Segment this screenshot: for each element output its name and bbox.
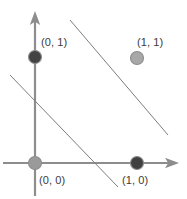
data-point-1-1 bbox=[131, 52, 144, 65]
data-point-label-1-1: (1, 1) bbox=[137, 36, 163, 48]
plot-canvas bbox=[0, 0, 187, 199]
data-point-label-0-0: (0, 0) bbox=[39, 174, 65, 186]
data-point-label-0-1: (0, 1) bbox=[41, 36, 67, 48]
lower-separator-line bbox=[10, 75, 118, 187]
xor-scatter-figure: (0, 1) (1, 1) (0, 0) (1, 0) bbox=[0, 0, 187, 199]
data-point-0-1 bbox=[29, 51, 42, 64]
data-point-label-1-0: (1, 0) bbox=[122, 174, 148, 186]
data-points-group bbox=[29, 51, 144, 170]
data-point-1-0 bbox=[131, 157, 144, 170]
data-point-0-0 bbox=[29, 157, 42, 170]
